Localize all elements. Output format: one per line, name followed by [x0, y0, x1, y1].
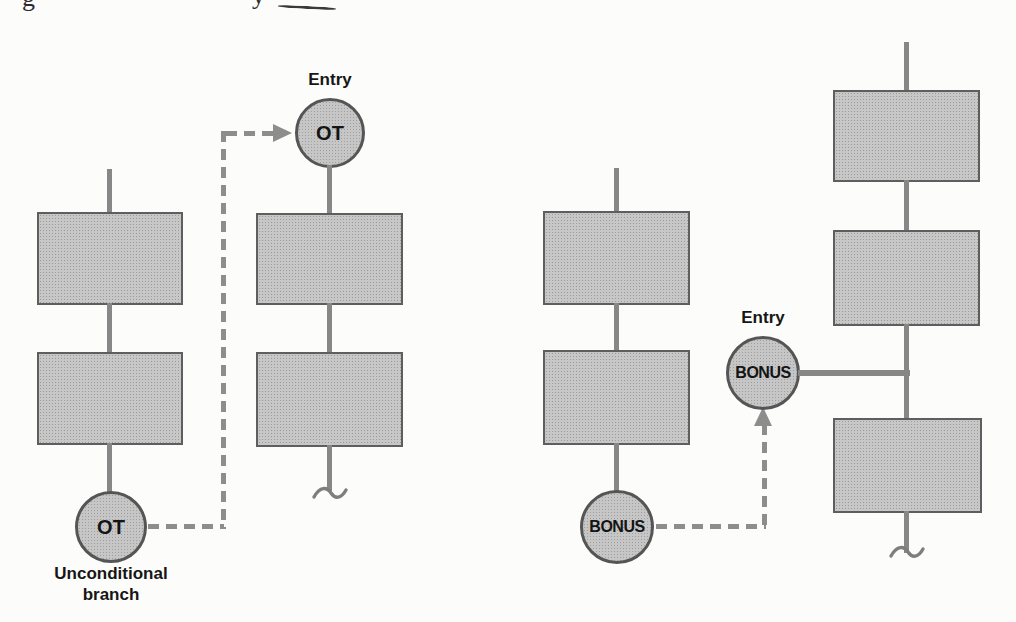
continuation-squiggle-icon — [888, 543, 926, 563]
flow-block — [543, 211, 690, 305]
branch-dashed-line — [226, 131, 274, 136]
branch-dashed-line — [221, 131, 226, 529]
connector-line — [107, 443, 112, 493]
connector-line — [107, 303, 112, 354]
connector-line — [327, 165, 332, 215]
flow-block — [833, 90, 980, 182]
connector-line — [904, 180, 909, 232]
entry-label: Entry — [713, 308, 813, 328]
caption-line: Unconditional — [16, 563, 206, 584]
connector-line — [327, 303, 332, 354]
unconditional-branch-caption: Unconditional branch — [16, 563, 206, 606]
ot-source-node: OT — [75, 491, 147, 563]
connector-line — [614, 443, 619, 492]
flow-block — [833, 230, 980, 326]
continuation-squiggle-icon — [311, 484, 349, 504]
branch-dashed-line — [762, 424, 767, 529]
bonus-entry-node: BONUS — [726, 336, 800, 410]
ot-entry-label: OT — [316, 122, 344, 145]
caption-line: branch — [16, 584, 206, 605]
flow-block — [256, 213, 403, 305]
bonus-source-node: BONUS — [580, 490, 654, 564]
connector-line — [107, 169, 112, 214]
flow-block — [37, 212, 183, 305]
cropped-letter: g — [22, 0, 35, 13]
branch-dashed-line — [148, 524, 224, 529]
branch-dashed-line — [656, 524, 766, 529]
cropped-caption-fragment: g y — [12, 0, 352, 15]
ot-source-label: OT — [97, 516, 125, 539]
connector-line — [614, 168, 619, 213]
flow-block — [256, 352, 403, 447]
entry-junction-line — [798, 370, 910, 376]
ot-entry-node: OT — [295, 98, 365, 168]
bonus-entry-label: BONUS — [735, 364, 790, 382]
flowchart-figure: g y OT Unconditional branch Entry OT — [0, 0, 1016, 622]
connector-line — [904, 324, 909, 420]
cropped-letter: y — [252, 0, 265, 11]
cropped-stroke — [278, 4, 336, 10]
connector-line — [904, 42, 909, 92]
connector-line — [614, 303, 619, 352]
entry-label: Entry — [280, 70, 380, 90]
flow-block — [543, 350, 690, 445]
bonus-source-label: BONUS — [589, 518, 644, 536]
arrowhead-right-icon — [273, 124, 292, 142]
flow-block — [833, 418, 982, 513]
flow-block — [37, 352, 183, 445]
